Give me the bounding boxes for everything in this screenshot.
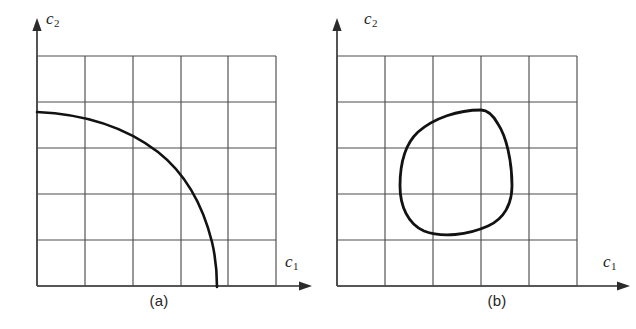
- panel-b-plot: [318, 0, 636, 329]
- boundary-curve-a: [37, 112, 217, 287]
- panel-a-plot: [0, 0, 318, 329]
- figure-panel-a: c2 c1 (a): [0, 0, 318, 329]
- region-boundary-b: [400, 110, 512, 235]
- y-axis-label-b: c2: [364, 9, 377, 29]
- x-axis-label-a: c1: [285, 252, 298, 272]
- figure-root: c2 c1 (a): [0, 0, 636, 329]
- panel-caption-a: (a): [0, 292, 318, 309]
- grid-a: [37, 56, 276, 286]
- panel-caption-b: (b): [318, 292, 636, 309]
- y-axis-label-a: c2: [46, 9, 59, 29]
- grid-b: [337, 56, 577, 286]
- figure-panel-b: c2 c1 (b): [318, 0, 636, 329]
- x-axis-label-b: c1: [603, 252, 616, 272]
